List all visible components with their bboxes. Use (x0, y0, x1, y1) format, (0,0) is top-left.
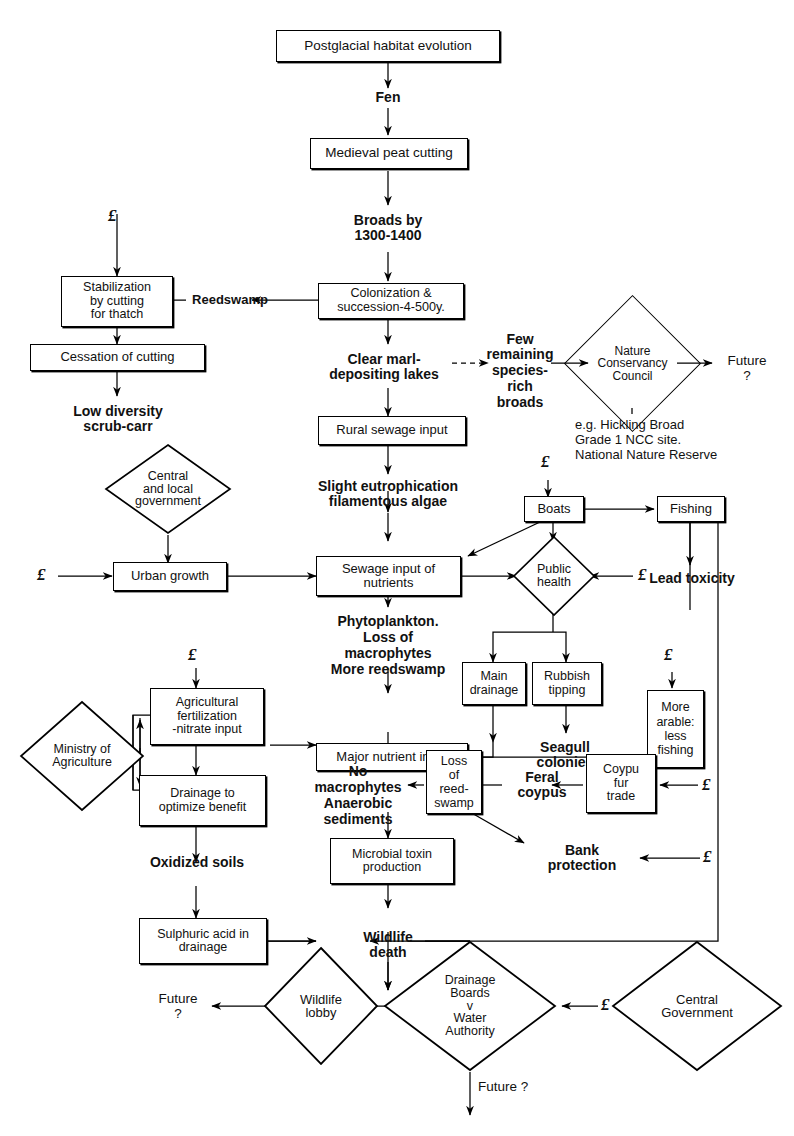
node-drainage-to-optimize-benefit[interactable]: Drainage to optimize benefit (139, 775, 266, 826)
label-line-4: fishing (657, 743, 693, 757)
label-line-3: less (664, 729, 686, 743)
label-line-2: of (449, 768, 459, 782)
label-line-5: broads (497, 395, 544, 411)
label-line-1: Clear marl- (347, 352, 420, 367)
label: Fen (376, 90, 401, 105)
node-reedswamp: Reedswamp (183, 290, 277, 310)
label-line-1: Feral (525, 770, 558, 785)
node-oxidized-soils: Oxidized soils (124, 852, 270, 874)
node-lead-toxicity: Lead toxicity (634, 568, 750, 590)
node-sewage-input-of-nutrients[interactable]: Sewage input of nutrients (316, 556, 461, 596)
label: Fishing (670, 502, 712, 516)
label-line-1: Drainage (445, 974, 496, 987)
label-line-2: 1300-1400 (355, 228, 422, 243)
node-public-health[interactable]: Public health (512, 535, 596, 617)
money-coypu-fur-icon: £ (702, 775, 711, 795)
money-urban-growth-icon: £ (37, 565, 46, 585)
caption-line-1: e.g. Hickling Broad (575, 417, 785, 432)
label-line-2: Government (661, 1006, 733, 1019)
money-agri-fert-icon: £ (188, 645, 197, 665)
node-central-and-local-government[interactable]: Central and local government (104, 443, 232, 535)
node-coypu-fur-trade[interactable]: Coypu fur trade (586, 754, 656, 813)
label-line-2: drainage (470, 684, 519, 698)
label-block: Public health (537, 563, 571, 589)
label-line-2: scrub-carr (83, 419, 152, 434)
node-colonization-succession[interactable]: Colonization & succession-4-500y. (318, 283, 464, 319)
label-block: Drainage Boards v Water Authority (445, 974, 496, 1038)
label-line-2: Conservancy (597, 357, 667, 369)
node-cessation-of-cutting[interactable]: Cessation of cutting (30, 344, 205, 371)
label-line-2: macrophytes (314, 780, 401, 796)
label-line-1: No (349, 764, 368, 780)
node-sulphuric-acid-in-drainage[interactable]: Sulphuric acid in drainage (139, 918, 267, 964)
node-rubbish-tipping[interactable]: Rubbish tipping (532, 662, 602, 705)
node-stabilization-by-cutting[interactable]: Stabilization by cutting for thatch (61, 276, 173, 327)
node-boats[interactable]: Boats (524, 496, 584, 522)
label-line-2: ? (743, 369, 751, 384)
label-line-1: Microbial toxin (352, 848, 432, 862)
node-medieval-peat-cutting[interactable]: Medieval peat cutting (310, 138, 468, 169)
label-line-5: Authority (445, 1025, 496, 1038)
node-drainage-boards-v-water-authority[interactable]: Drainage Boards v Water Authority (383, 940, 557, 1072)
label-line-2: drainage (179, 941, 228, 955)
label: Rural sewage input (336, 423, 447, 437)
label-line-1: Slight eutrophication (318, 479, 458, 494)
caption-hickling-broad: e.g. Hickling Broad Grade 1 NCC site. Na… (575, 417, 785, 462)
label-line-1: Sewage input of (342, 562, 435, 576)
node-main-drainage[interactable]: Main drainage (462, 662, 526, 705)
label-line-1: Bank (565, 843, 599, 858)
label-line-1: Low diversity (73, 404, 162, 419)
label: Oxidized soils (150, 855, 244, 870)
flowchart-canvas: Postglacial habitat evolution Fen Mediev… (0, 0, 794, 1136)
node-urban-growth[interactable]: Urban growth (113, 562, 227, 591)
node-nature-conservancy-council[interactable]: Nature Conservancy Council (584, 315, 681, 412)
label-line-3: Council (597, 370, 667, 382)
label-line-3: macrophytes (344, 646, 431, 662)
label-line-3: species- (492, 363, 548, 379)
node-fen: Fen (348, 88, 428, 108)
label-line-1: Seagull (540, 740, 590, 755)
node-ncc-future: Future ? (712, 351, 782, 387)
label-line-3: for thatch (91, 308, 144, 322)
node-wildlife-lobby[interactable]: Wildlife lobby (263, 946, 379, 1066)
label: Future ? (478, 1080, 528, 1095)
node-clear-marl-depositing-lakes: Clear marl- depositing lakes (310, 345, 458, 389)
label-line-1: Central (661, 993, 733, 1006)
node-central-government[interactable]: Central Government (611, 940, 783, 1072)
node-ministry-of-agriculture[interactable]: Ministry of Agriculture (19, 700, 145, 812)
label: Postglacial habitat evolution (304, 39, 471, 54)
label-line-2: optimize benefit (159, 801, 247, 815)
node-few-remaining-species-rich-broads: Few remaining species- rich broads (482, 331, 558, 411)
label: Cessation of cutting (60, 350, 174, 364)
node-bank-protection: Bank protection (524, 838, 640, 878)
node-wildlife-lobby-future: Future ? (143, 989, 213, 1025)
label-line-3: Anaerobic (324, 796, 392, 812)
label: Boats (537, 502, 570, 516)
label-line-2: production (363, 861, 421, 875)
node-drainage-boards-future: Future ? (478, 1077, 558, 1097)
label-line-1: Broads by (354, 213, 422, 228)
money-boats-icon: £ (541, 452, 550, 472)
node-agricultural-fertilization[interactable]: Agricultural fertilization -nitrate inpu… (150, 688, 264, 745)
label-line-2: protection (548, 858, 616, 873)
label-line-3: government (135, 495, 201, 508)
node-loss-of-reedswamp[interactable]: Loss of reed- swamp (426, 750, 482, 814)
label-line-2: fertilization (177, 710, 237, 724)
label: Medieval peat cutting (325, 146, 453, 161)
label-block: Nature Conservancy Council (597, 345, 667, 382)
label-line-2: succession-4-500y. (337, 301, 445, 315)
label-line-1: Main (480, 670, 507, 684)
label: Reedswamp (192, 293, 268, 307)
node-postglacial-habitat-evolution[interactable]: Postglacial habitat evolution (276, 30, 500, 62)
label-line-2: lobby (300, 1006, 342, 1019)
label-line-2: coypus (517, 785, 566, 800)
label-line-1: Phytoplankton. (337, 614, 438, 630)
money-central-government-icon: £ (601, 995, 610, 1015)
node-rural-sewage-input[interactable]: Rural sewage input (318, 416, 466, 445)
node-microbial-toxin-production[interactable]: Microbial toxin production (330, 838, 454, 884)
label-line-1: Rubbish (544, 670, 590, 684)
label-line-4: More reedswamp (331, 662, 445, 678)
label-line-2: Loss of (363, 630, 413, 646)
label-line-1: Central (135, 470, 201, 483)
node-fishing[interactable]: Fishing (657, 496, 725, 522)
